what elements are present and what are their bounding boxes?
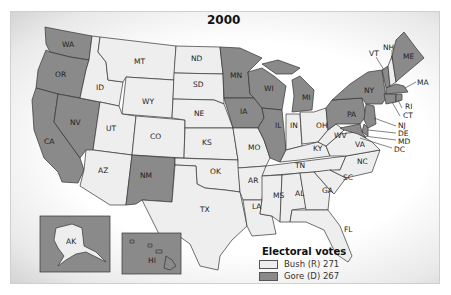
label-OH: OH — [316, 121, 328, 130]
label-TN: TN — [294, 161, 305, 170]
label-KY: KY — [313, 144, 323, 153]
state-NJ — [364, 104, 376, 128]
label-RI: RI — [405, 102, 412, 111]
label-MT: MT — [134, 57, 145, 66]
legend: Electoral votes Bush (R) 271 Gore (D) 26… — [262, 246, 346, 281]
label-TX: TX — [199, 205, 210, 214]
legend-item-gore: Gore (D) 267 — [259, 271, 346, 281]
legend-label-gore: Gore (D) 267 — [284, 271, 339, 281]
label-MI: MI — [302, 93, 311, 102]
label-FL: FL — [344, 225, 353, 234]
label-AZ: AZ — [98, 166, 108, 175]
label-PA: PA — [347, 110, 357, 119]
label-AR: AR — [248, 176, 258, 185]
label-OK: OK — [210, 167, 222, 176]
label-OR: OR — [55, 70, 66, 79]
label-MS: MS — [273, 191, 284, 200]
label-MN: MN — [230, 71, 242, 80]
map-title: 2000 — [207, 13, 240, 27]
label-AL: AL — [295, 189, 305, 198]
label-SC: SC — [343, 173, 353, 182]
label-ID: ID — [96, 83, 104, 92]
label-NE: NE — [194, 109, 205, 118]
legend-label-bush: Bush (R) 271 — [284, 259, 339, 269]
label-CA: CA — [44, 137, 55, 146]
label-AK: AK — [66, 237, 77, 246]
swatch-gore — [259, 272, 278, 281]
label-VA: VA — [355, 140, 366, 149]
label-WA: WA — [62, 40, 75, 49]
label-NV: NV — [70, 118, 82, 127]
label-NM: NM — [140, 171, 152, 180]
state-CT — [384, 94, 396, 104]
label-UT: UT — [106, 124, 116, 133]
label-CT: CT — [403, 111, 413, 120]
label-ME: ME — [403, 52, 414, 61]
state-NM — [126, 155, 175, 205]
label-IA: IA — [240, 107, 248, 116]
label-MA: MA — [417, 78, 429, 87]
label-DC: DC — [394, 145, 405, 154]
label-IN: IN — [290, 121, 298, 130]
label-HI: HI — [148, 256, 156, 265]
label-SD: SD — [193, 80, 204, 89]
label-IL: IL — [275, 121, 282, 130]
label-NC: NC — [357, 157, 368, 166]
label-GA: GA — [322, 186, 334, 195]
us-electoral-map: WA OR CA NV ID MT WY UT CO AZ NM ND SD N… — [0, 0, 451, 295]
label-CO: CO — [150, 132, 161, 141]
label-WV: WV — [334, 131, 347, 140]
legend-item-bush: Bush (R) 271 — [259, 259, 346, 269]
label-NY: NY — [364, 86, 375, 95]
state-IN — [286, 114, 302, 150]
label-NH: NH — [383, 43, 394, 52]
legend-title: Electoral votes — [262, 246, 346, 257]
label-KS: KS — [202, 138, 212, 147]
state-AZ — [80, 150, 132, 205]
label-ND: ND — [191, 54, 203, 63]
label-WY: WY — [142, 97, 154, 106]
state-RI — [396, 94, 402, 102]
label-LA: LA — [252, 202, 262, 211]
label-WI: WI — [264, 84, 274, 93]
swatch-bush — [259, 260, 278, 269]
label-MO: MO — [248, 143, 260, 152]
label-VT: VT — [369, 49, 379, 58]
